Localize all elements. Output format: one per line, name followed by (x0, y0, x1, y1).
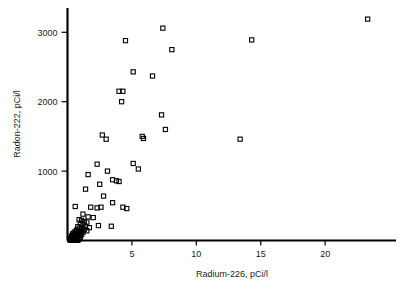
data-point-marker (95, 162, 99, 166)
data-point-marker (110, 201, 114, 205)
data-point-marker (163, 127, 167, 131)
x-tick-label: 10 (191, 249, 201, 259)
data-point-marker (136, 167, 140, 171)
data-point-marker (96, 223, 100, 227)
data-point-marker (86, 215, 90, 219)
data-point-marker (101, 194, 105, 198)
plot-canvas: 5101520 100020003000 Radium-226, pCi/l R… (0, 0, 400, 288)
data-point-marker (104, 137, 108, 141)
y-axis-title: Radon-222, pCi/l (12, 90, 22, 158)
data-point-marker (123, 39, 127, 43)
data-points-layer (68, 17, 370, 242)
data-point-marker (98, 182, 102, 186)
data-point-marker (250, 38, 254, 42)
data-point-marker (81, 212, 85, 216)
data-point-marker (89, 205, 93, 209)
x-tick-label: 15 (256, 249, 266, 259)
data-point-marker (86, 172, 90, 176)
x-axis-tick-labels: 5101520 (129, 249, 330, 259)
x-tick-label: 5 (129, 249, 134, 259)
data-point-marker (83, 187, 87, 191)
y-tick-label: 1000 (37, 167, 57, 177)
x-tick-label: 20 (320, 249, 330, 259)
data-point-marker (131, 161, 135, 165)
data-point-marker (170, 48, 174, 52)
data-point-marker (100, 133, 104, 137)
y-tick-label: 3000 (37, 28, 57, 38)
x-axis-title: Radium-226, pCi/l (196, 269, 268, 279)
data-point-marker (91, 216, 95, 220)
data-point-marker (150, 74, 154, 78)
data-point-marker (131, 70, 135, 74)
plot-axes (67, 8, 396, 241)
data-point-marker (161, 26, 165, 30)
data-point-marker (238, 137, 242, 141)
data-point-marker (109, 224, 113, 228)
data-point-marker (366, 17, 370, 21)
y-tick-label: 2000 (37, 97, 57, 107)
data-point-marker (73, 204, 77, 208)
y-axis-tick-labels: 100020003000 (37, 28, 57, 177)
scatter-plot-figure: 5101520 100020003000 Radium-226, pCi/l R… (0, 0, 400, 288)
data-point-marker (159, 113, 163, 117)
data-point-marker (105, 169, 109, 173)
data-point-marker (120, 100, 124, 104)
